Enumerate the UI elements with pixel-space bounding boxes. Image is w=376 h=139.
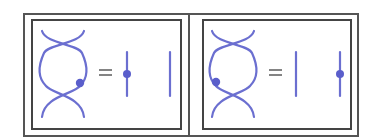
- diagram-canvas: [0, 0, 376, 139]
- left-braid-diagram: [40, 31, 87, 117]
- left-rhs-dot: [123, 70, 131, 78]
- right-braid-dot: [212, 78, 220, 86]
- right-equals-sign: [269, 70, 282, 75]
- right-braid-diagram: [210, 31, 257, 117]
- right-rhs-dot: [336, 70, 344, 78]
- left-equals-sign: [99, 70, 112, 75]
- left-braid-dot: [76, 79, 84, 87]
